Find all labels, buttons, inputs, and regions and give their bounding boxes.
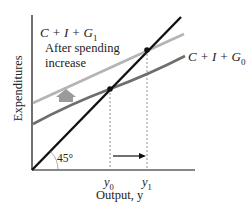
- label-c-i-g0-sub: 0: [241, 57, 246, 67]
- y-axis-label: Expenditures: [12, 61, 25, 121]
- equilibrium-point-y0: [107, 86, 113, 92]
- label-after-spending: After spending: [45, 42, 120, 55]
- label-increase: increase: [45, 57, 86, 70]
- angle-label: 45°: [57, 153, 73, 165]
- equilibrium-point-y1: [144, 47, 150, 53]
- tick-y1-sub: 1: [148, 182, 152, 192]
- arrow-head-icon: [139, 153, 146, 159]
- label-c-i-g0: C + I + G0: [188, 50, 245, 67]
- label-c-i-g1-main: C + I + G: [40, 25, 93, 40]
- tick-y1: y1: [142, 176, 152, 191]
- keynesian-cross-diagram: [0, 0, 247, 202]
- x-axis-label: Output, y: [96, 189, 143, 202]
- label-c-i-g0-main: C + I + G: [188, 49, 241, 64]
